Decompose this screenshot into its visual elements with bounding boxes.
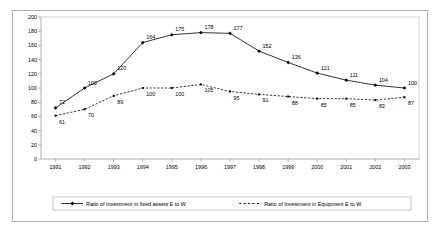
data-point-label: 164 [146, 34, 155, 40]
data-point-marker [403, 86, 407, 90]
y-tick-label: 200 [28, 14, 37, 20]
data-point-label: 87 [408, 100, 414, 106]
data-point-marker [258, 93, 260, 95]
data-point-label: 100 [88, 80, 97, 86]
x-tick-label: 1995 [166, 164, 178, 170]
x-tick-label: 1999 [282, 164, 294, 170]
data-point-label: 83 [379, 103, 385, 109]
data-point-label: 88 [292, 100, 298, 106]
legend-label-0: Ratio of Investment in fixed assets E to… [86, 201, 187, 207]
x-tick-label: 2003 [398, 164, 410, 170]
data-point-marker [286, 61, 290, 65]
y-tick-label: 0 [34, 156, 37, 162]
y-tick-label: 180 [28, 28, 37, 34]
data-point-marker [316, 98, 318, 100]
data-point-label: 100 [175, 91, 184, 97]
data-point-marker [344, 78, 348, 82]
data-point-marker [199, 31, 203, 35]
y-tick-label: 40 [31, 128, 37, 134]
data-point-label: 91 [263, 97, 269, 103]
data-point-label: 70 [88, 112, 94, 118]
x-tick-label: 1997 [224, 164, 236, 170]
data-point-label: 136 [292, 54, 301, 60]
data-point-label: 85 [350, 102, 356, 108]
data-point-marker [200, 83, 202, 85]
data-point-marker [374, 83, 378, 87]
data-point-label: 85 [321, 102, 327, 108]
x-tick-label: 1998 [253, 164, 265, 170]
data-point-marker [113, 95, 115, 97]
data-point-label: 72 [59, 99, 65, 105]
data-point-marker [374, 99, 376, 101]
data-point-label: 178 [204, 24, 213, 30]
y-tick-label: 80 [31, 99, 37, 105]
data-point-marker [403, 96, 405, 98]
data-point-label: 61 [59, 119, 65, 125]
data-point-marker [229, 91, 231, 93]
x-tick-label: 2000 [311, 164, 323, 170]
data-point-marker [287, 96, 289, 98]
x-tick-label: 1994 [137, 164, 149, 170]
data-point-marker [142, 87, 144, 89]
data-point-marker [345, 98, 347, 100]
data-point-marker [84, 108, 86, 110]
chart-frame: 0204060801001201401601802001991199219931… [12, 10, 428, 222]
y-tick-label: 60 [31, 113, 37, 119]
x-tick-label: 1991 [50, 164, 62, 170]
data-point-label: 95 [234, 95, 240, 101]
series-line-1 [56, 84, 405, 115]
data-point-marker [228, 31, 232, 35]
data-point-label: 152 [263, 43, 272, 49]
legend-label-1: Ratio of Investment in Equipment E to W [264, 201, 362, 207]
y-tick-label: 160 [28, 42, 37, 48]
data-point-marker [257, 49, 261, 53]
x-tick-label: 1996 [195, 164, 207, 170]
data-point-label: 111 [350, 72, 358, 78]
data-point-label: 177 [234, 25, 243, 31]
y-tick-label: 20 [31, 142, 37, 148]
data-point-label: 105 [204, 87, 213, 93]
x-tick-label: 1993 [108, 164, 120, 170]
x-tick-label: 2002 [369, 164, 381, 170]
data-point-marker [315, 71, 319, 75]
data-point-label: 100 [408, 80, 417, 86]
line-chart: 0204060801001201401601802001991199219931… [13, 11, 427, 221]
data-point-label: 100 [146, 91, 155, 97]
y-tick-label: 140 [28, 57, 37, 63]
data-point-marker [170, 33, 174, 37]
data-point-label: 104 [379, 77, 388, 83]
x-tick-label: 2001 [340, 164, 352, 170]
series-line-0 [56, 33, 405, 108]
data-point-marker [55, 115, 57, 117]
data-point-marker [171, 87, 173, 89]
data-point-label: 175 [175, 26, 184, 32]
data-point-label: 120 [117, 65, 126, 71]
x-tick-label: 1992 [79, 164, 91, 170]
data-point-label: 121 [321, 65, 330, 71]
y-tick-label: 120 [28, 71, 37, 77]
data-point-label: 89 [117, 99, 123, 105]
y-tick-label: 100 [28, 85, 37, 91]
